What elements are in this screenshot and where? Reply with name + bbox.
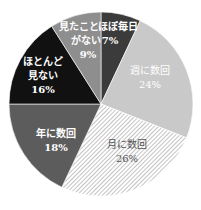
label-daily-pct: 7% bbox=[102, 35, 119, 46]
label-yearly-text: 年に数回 bbox=[36, 127, 76, 139]
label-yearly-pct: 18% bbox=[44, 142, 68, 153]
label-never-text1: 見たこと bbox=[58, 21, 99, 32]
label-weekly-pct: 24% bbox=[139, 79, 161, 90]
label-rarely-text2: 見ない bbox=[27, 70, 58, 81]
label-monthly-pct: 26% bbox=[116, 153, 138, 164]
label-rarely-text1: ほとんど bbox=[23, 55, 63, 67]
label-monthly-text: 月に数回 bbox=[107, 138, 147, 150]
label-never-pct: 9% bbox=[80, 49, 97, 60]
label-daily-text: ほぼ毎日 bbox=[98, 20, 138, 32]
label-rarely-pct: 16% bbox=[31, 84, 55, 95]
pie-chart: ほぼ毎日 7% 週に数回 24% 月に数回 26% 年に数回 18% ほとんど … bbox=[0, 0, 201, 210]
label-weekly-text: 週に数回 bbox=[130, 64, 170, 76]
label-never-text2: がない bbox=[71, 34, 101, 46]
